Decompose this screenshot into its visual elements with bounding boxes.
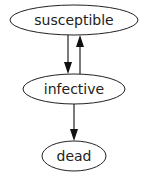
node-infective[interactable]: infective (23, 74, 125, 104)
arrow-head-up (76, 35, 84, 47)
node-label-infective: infective (44, 81, 104, 97)
edge-infective-to-susceptible (76, 35, 84, 74)
node-dead[interactable]: dead (42, 141, 106, 171)
arrow-head-down (70, 129, 78, 141)
arrow-head-down (64, 62, 72, 74)
edge-susceptible-to-infective (64, 35, 72, 74)
node-label-dead: dead (57, 148, 92, 164)
state-diagram: susceptible infective dead (0, 0, 148, 181)
node-label-susceptible: susceptible (34, 12, 113, 28)
node-susceptible[interactable]: susceptible (10, 5, 138, 35)
edge-infective-to-dead (70, 104, 78, 141)
